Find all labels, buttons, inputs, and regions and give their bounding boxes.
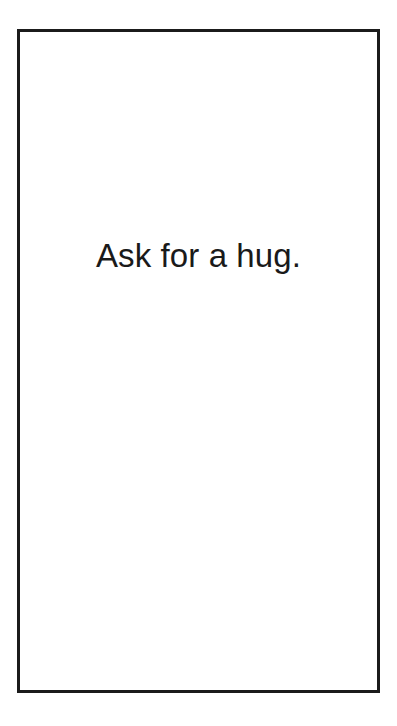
prompt-text: Ask for a hug. <box>96 238 301 275</box>
screen: Ask for a hug. <box>0 0 397 726</box>
prompt-card[interactable]: Ask for a hug. <box>17 29 380 693</box>
prompt-card-body: Ask for a hug. <box>20 32 377 690</box>
